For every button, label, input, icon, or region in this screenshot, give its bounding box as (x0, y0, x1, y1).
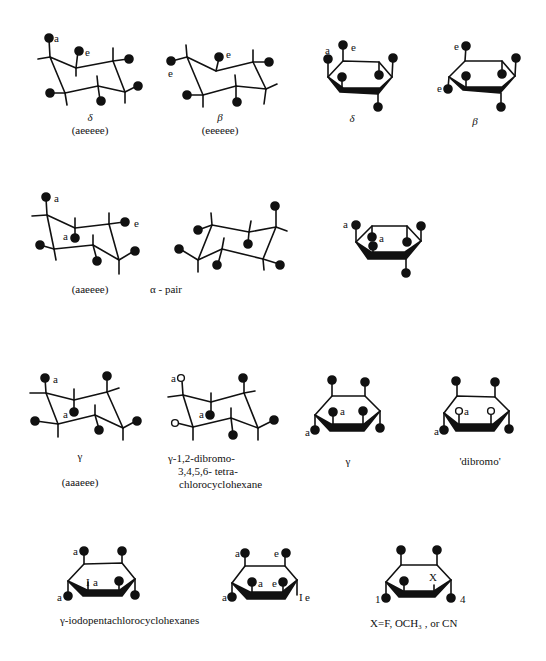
beta-chair-caption-greek: β (200, 111, 240, 124)
alpha-pair-caption: α - pair (150, 283, 200, 296)
axial-label: a (305, 426, 310, 438)
dibromo-ring-caption: 'dibromo' (445, 455, 515, 468)
gamma-chair-caption-greek: γ (60, 450, 100, 463)
axial-label: a (57, 591, 62, 603)
beta-chair-caption-conformation: (eeeeee) (185, 124, 255, 137)
iodo-ring-1-structure (68, 551, 135, 596)
equatorial-label: e (85, 46, 90, 58)
gamma-chair-caption-conformation: (aaaeee) (45, 476, 115, 489)
axial-label: a (258, 577, 263, 589)
axial-label: a (464, 405, 469, 417)
dibromo-caption-line-1: γ-1,2-dibromo- (168, 452, 278, 465)
axial-label: a (325, 44, 330, 56)
equatorial-label: e (437, 82, 442, 94)
alpha-ring-structure (356, 226, 421, 272)
axial-label: a (199, 408, 204, 420)
dibromo-chair-caption: γ-1,2-dibromo- 3,4,5,6- tetra- chlorocyc… (168, 452, 278, 491)
iodine-label: I (86, 576, 90, 588)
axial-label: a (93, 576, 98, 588)
position-4-label: 4 (460, 593, 466, 605)
equatorial-label: e (454, 40, 459, 52)
axial-label: a (53, 373, 58, 385)
gamma-chair-structure (30, 377, 136, 440)
beta-ring-caption: β (460, 115, 490, 128)
axial-label: a (63, 230, 68, 242)
substituent-x-label: X (429, 571, 437, 583)
iodine-label: I (299, 591, 303, 603)
axial-label: a (171, 372, 176, 384)
equatorial-label: e (134, 217, 139, 229)
axial-label: a (54, 192, 59, 204)
delta-ring-caption: δ (337, 112, 367, 125)
equatorial-label: e (226, 48, 231, 60)
gamma-ring-caption: γ (333, 455, 363, 468)
axial-label: a (343, 218, 348, 230)
axial-label: a (54, 32, 59, 44)
axial-label: a (434, 425, 439, 437)
delta-chair-caption-greek: δ (70, 111, 110, 124)
axial-label: a (235, 547, 240, 559)
iodo-caption: γ-iodopentachlorocyclohexanes (60, 614, 220, 627)
x-substituent-caption: X=F, OCH₃ , or CN (370, 617, 480, 630)
position-1-label: 1 (375, 593, 381, 605)
delta-chair-caption-conformation: (aeeeee) (55, 124, 125, 137)
gamma-ring-structure (315, 381, 380, 431)
dibromo-caption-line-3: chlorocyclohexane (168, 478, 278, 491)
equatorial-label: e (274, 547, 279, 559)
hch-conformation-diagram (0, 0, 546, 661)
dibromo-chair-structure (168, 378, 272, 440)
axial-label: a (73, 545, 78, 557)
axial-label: a (340, 405, 345, 417)
axial-label: a (222, 591, 227, 603)
equatorial-label: e (351, 41, 356, 53)
dibromo-ring-structure (444, 382, 509, 431)
dibromo-caption-line-2: 3,4,5,6- tetra- (168, 465, 278, 478)
equatorial-label: e (168, 67, 173, 79)
alpha-pair-chair-structure (180, 208, 287, 272)
aaeeee-caption: (aaeeee) (55, 283, 125, 296)
aaeeee-chair-structure (32, 198, 134, 274)
axial-label: a (63, 408, 68, 420)
x-ring-structure (386, 551, 451, 597)
equatorial-label: e (305, 591, 310, 603)
iodo-ring-2-structure (232, 553, 297, 599)
equatorial-label: e (272, 577, 277, 589)
axial-label: a (379, 232, 384, 244)
